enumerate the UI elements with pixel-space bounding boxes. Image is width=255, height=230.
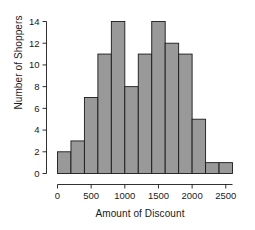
x-tick-label: 0 bbox=[55, 190, 60, 201]
y-tick-label: 8 bbox=[34, 81, 39, 92]
y-tick-label: 0 bbox=[34, 168, 39, 179]
histogram-bar bbox=[98, 54, 111, 173]
x-tick-label: 1000 bbox=[114, 190, 135, 201]
y-tick-label: 4 bbox=[34, 124, 39, 135]
histogram-bar bbox=[206, 163, 219, 174]
histogram-bar bbox=[58, 152, 71, 174]
x-tick-label: 2500 bbox=[215, 190, 236, 201]
y-tick-label: 14 bbox=[29, 16, 40, 27]
histogram-bar bbox=[138, 54, 151, 173]
histogram-bar bbox=[165, 43, 178, 173]
x-tick-label: 500 bbox=[83, 190, 99, 201]
histogram-bar bbox=[111, 22, 124, 174]
histogram-bar bbox=[219, 163, 232, 174]
histogram-chart: Number of Shoppers Amount of Discount 02… bbox=[0, 0, 255, 230]
y-tick-label: 10 bbox=[29, 59, 40, 70]
x-tick-label: 2000 bbox=[182, 190, 203, 201]
x-tick-label: 1500 bbox=[148, 190, 169, 201]
y-tick-label: 2 bbox=[34, 146, 39, 157]
histogram-bar bbox=[71, 141, 84, 174]
histogram-bar bbox=[192, 119, 205, 173]
y-tick-label: 12 bbox=[29, 38, 40, 49]
y-tick-label: 6 bbox=[34, 103, 39, 114]
histogram-bar bbox=[84, 98, 97, 174]
histogram-bar bbox=[179, 54, 192, 173]
plot-area: 0246810121405001000150020002500 bbox=[0, 0, 255, 230]
histogram-bar bbox=[152, 22, 165, 174]
histogram-bar bbox=[125, 87, 138, 174]
